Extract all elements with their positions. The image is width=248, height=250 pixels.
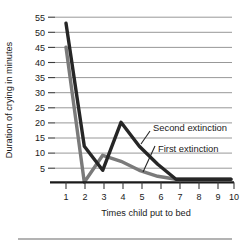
x-tick-labels: 1 2 3 4 5 6 7 8 9 10	[63, 192, 239, 202]
crying-duration-line-chart: 55 50 45 40 35 30 25 20 15 10 5	[0, 0, 248, 250]
x-tick-label-4: 4	[120, 192, 125, 202]
y-tick-label-50: 50	[35, 28, 45, 38]
y-tick-label-40: 40	[35, 58, 45, 68]
y-tickmarks	[48, 17, 55, 168]
y-tick-label-45: 45	[35, 43, 45, 53]
x-tick-label-6: 6	[158, 192, 163, 202]
series-second-extinction	[66, 23, 231, 179]
y-tick-label-35: 35	[35, 73, 45, 83]
y-tick-label-55: 55	[35, 13, 45, 23]
series-first-extinction	[66, 47, 231, 182]
y-tick-label-15: 15	[35, 133, 45, 143]
y-tick-label-25: 25	[35, 103, 45, 113]
y-tick-label-10: 10	[35, 148, 45, 158]
y-tick-label-5: 5	[40, 164, 45, 174]
x-tick-label-9: 9	[215, 192, 220, 202]
x-tick-label-2: 2	[82, 192, 87, 202]
x-tick-label-1: 1	[63, 192, 68, 202]
y-tick-label-30: 30	[35, 88, 45, 98]
x-tick-label-3: 3	[101, 192, 106, 202]
y-axis-title: Duration of crying in minutes	[4, 41, 14, 158]
x-tick-label-10: 10	[229, 192, 239, 202]
annotation-first-extinction: First extinction	[158, 143, 218, 154]
figure-container: 55 50 45 40 35 30 25 20 15 10 5	[0, 0, 248, 250]
x-tick-label-5: 5	[139, 192, 144, 202]
leader-second-extinction	[141, 131, 150, 144]
x-tick-label-7: 7	[177, 192, 182, 202]
y-tick-label-20: 20	[35, 118, 45, 128]
x-tick-label-8: 8	[196, 192, 201, 202]
x-axis-title: Times child put to bed	[101, 208, 191, 218]
annotation-second-extinction: Second extinction	[153, 122, 227, 133]
y-tick-labels: 55 50 45 40 35 30 25 20 15 10 5	[35, 13, 45, 174]
